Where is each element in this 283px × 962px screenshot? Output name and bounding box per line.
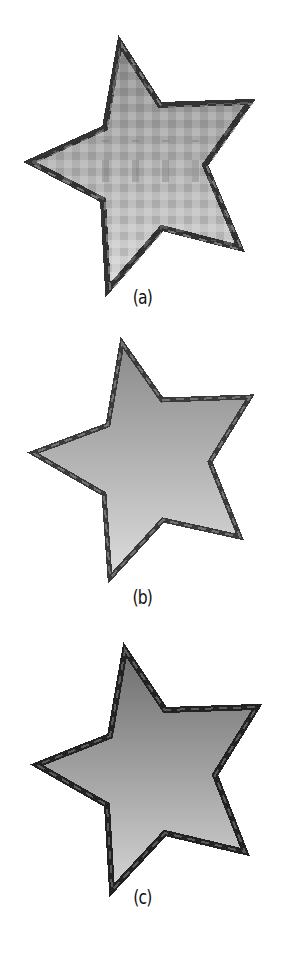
star-c-icon (0, 620, 283, 900)
star-b-icon (0, 320, 283, 590)
panel-c-label: (c) (26, 886, 258, 908)
star-a-icon (0, 0, 283, 300)
panel-c: (c) (0, 620, 283, 962)
panel-b-label: (b) (26, 586, 258, 608)
panel-b: (b) (0, 320, 283, 620)
panel-a: (a) (0, 0, 283, 320)
panel-a-label: (a) (26, 286, 258, 308)
